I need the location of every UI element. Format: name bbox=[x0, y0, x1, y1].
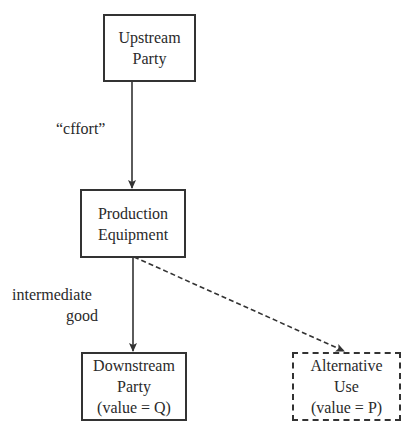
alternative-line-3: (value = P) bbox=[311, 397, 382, 418]
upstream-line-2: Party bbox=[133, 48, 167, 69]
downstream-line-3: (value = Q) bbox=[97, 397, 171, 418]
production-line-1: Production bbox=[98, 203, 168, 224]
alternative-line-2: Use bbox=[334, 376, 359, 397]
intermediate-good-label: intermediate good bbox=[12, 284, 98, 326]
downstream-party-node: Downstream Party (value = Q) bbox=[81, 352, 187, 421]
downstream-line-1: Downstream bbox=[93, 355, 175, 376]
alternative-use-arrow bbox=[134, 257, 344, 351]
upstream-party-node: Upstream Party bbox=[103, 14, 196, 82]
alternative-line-1: Alternative bbox=[311, 355, 383, 376]
intermediate-label-line-2: good bbox=[12, 305, 98, 326]
alternative-use-node: Alternative Use (value = P) bbox=[292, 352, 401, 421]
production-equipment-node: Production Equipment bbox=[80, 189, 186, 258]
intermediate-label-line-1: intermediate bbox=[12, 284, 98, 305]
production-line-2: Equipment bbox=[98, 224, 168, 245]
downstream-line-2: Party bbox=[117, 376, 151, 397]
effort-label: “cffort” bbox=[56, 118, 105, 139]
upstream-line-1: Upstream bbox=[118, 27, 180, 48]
